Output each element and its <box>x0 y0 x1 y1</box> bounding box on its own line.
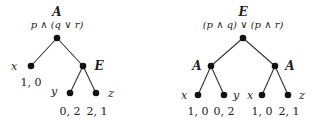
right-label-a-left: A <box>192 60 201 72</box>
left-label-x: x <box>11 61 17 72</box>
right-root-formula: (p ∧ q) ∨ (p ∧ r) <box>203 20 284 30</box>
left-payoff-x: 1, 0 <box>21 77 42 88</box>
right-leaf-3-payoff: 1, 0 <box>252 106 273 117</box>
left-root-player: A <box>52 6 61 18</box>
right-leaf-2-payoff: 0, 2 <box>214 106 235 117</box>
left-node-z <box>93 90 100 97</box>
right-leaf-1 <box>195 92 202 99</box>
right-tree-nodes <box>195 35 292 99</box>
right-leaf-4-payoff: 2, 1 <box>279 106 300 117</box>
left-node-e <box>80 63 87 70</box>
left-root-node <box>54 35 61 42</box>
right-leaf-1-label: x <box>181 90 187 101</box>
right-root-node <box>240 35 247 42</box>
left-label-y: y <box>51 86 57 97</box>
right-label-a-right: A <box>285 60 294 72</box>
left-node-x <box>28 63 35 70</box>
right-leaf-2-label: y <box>233 90 239 101</box>
left-payoff-z: 2, 1 <box>87 106 108 117</box>
right-leaf-4 <box>285 92 292 99</box>
right-leaf-2 <box>221 92 228 99</box>
right-leaf-3 <box>259 92 266 99</box>
left-root-formula: p ∧ (q ∨ r) <box>31 20 84 30</box>
left-label-z: z <box>108 88 114 99</box>
right-root-player: E <box>238 6 247 18</box>
left-node-y <box>67 90 74 97</box>
right-leaf-1-payoff: 1, 0 <box>188 106 209 117</box>
right-leaf-4-label: z <box>299 90 305 101</box>
right-node-a-left <box>208 63 215 70</box>
right-leaf-3-label: x <box>247 90 253 101</box>
left-label-e: E <box>94 60 103 72</box>
right-node-a-right <box>272 63 279 70</box>
left-payoff-y: 0, 2 <box>60 106 81 117</box>
